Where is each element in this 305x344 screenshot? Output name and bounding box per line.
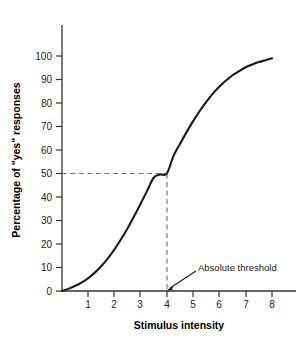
x-tick-label-8: 8: [269, 299, 275, 310]
y-tick-label-100: 100: [35, 51, 52, 62]
absolute-threshold-label: Absolute threshold: [198, 262, 277, 273]
y-tick-label-60: 60: [41, 145, 53, 156]
x-tick-label-2: 2: [111, 299, 117, 310]
y-tick-label-10: 10: [41, 262, 53, 273]
x-tick-label-7: 7: [243, 299, 249, 310]
y-tick-label-50: 50: [41, 168, 53, 179]
chart-figure: 0 10 20 30 40 50 60 70 80 90 100 1 2: [0, 0, 305, 344]
y-tick-label-20: 20: [41, 239, 53, 250]
y-tick-label-40: 40: [41, 192, 53, 203]
x-tick-label-4: 4: [164, 299, 170, 310]
y-tick-label-70: 70: [41, 121, 53, 132]
y-tick-label-90: 90: [41, 74, 53, 85]
psychometric-curve-chart: 0 10 20 30 40 50 60 70 80 90 100 1 2: [0, 0, 305, 344]
y-tick-label-0: 0: [46, 286, 52, 297]
x-tick-label-5: 5: [190, 299, 196, 310]
y-tick-label-80: 80: [41, 98, 53, 109]
y-tick-label-30: 30: [41, 215, 53, 226]
x-tick-label-6: 6: [216, 299, 222, 310]
y-axis-title: Percentage of "yes" responses: [10, 82, 22, 237]
x-tick-label-1: 1: [85, 299, 91, 310]
x-axis-title: Stimulus intensity: [134, 319, 225, 331]
x-tick-label-3: 3: [137, 299, 143, 310]
